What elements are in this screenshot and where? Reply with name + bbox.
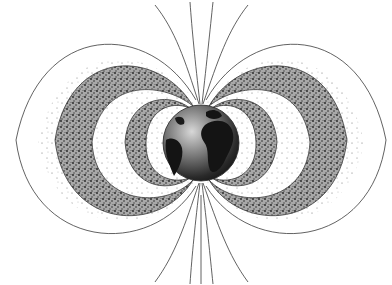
magnetosphere-diagram: Earth's magnetosphere with radiation bel… — [0, 0, 392, 285]
diagram-canvas — [0, 0, 392, 285]
earth-globe — [163, 105, 239, 181]
